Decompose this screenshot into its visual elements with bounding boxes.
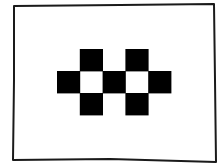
filled-cell	[125, 93, 148, 115]
filled-cell	[125, 49, 148, 71]
diagram-canvas	[0, 0, 224, 166]
filled-cell	[103, 71, 126, 93]
filled-cell	[148, 71, 171, 93]
filled-cell	[57, 71, 80, 93]
filled-cell	[80, 49, 103, 71]
filled-cell	[80, 93, 103, 115]
